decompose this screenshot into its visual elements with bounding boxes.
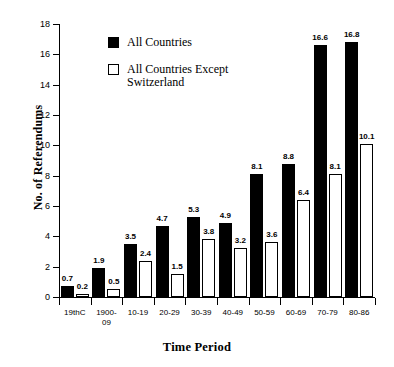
bar-value-label: 16.6 (308, 34, 333, 42)
bar (107, 289, 120, 297)
x-axis-tick (185, 298, 186, 305)
legend-swatch-hollow-icon (108, 64, 119, 75)
y-axis-tick (53, 176, 60, 177)
bar-value-label: 3.5 (118, 233, 143, 241)
x-axis-tick (122, 298, 123, 305)
referendums-bar-chart: 024681012141618 No. of Referendums 19thC… (0, 0, 394, 367)
x-axis-tick (217, 298, 218, 305)
x-axis-tick (343, 298, 344, 305)
bar (234, 248, 247, 297)
legend-item: All Countries (108, 36, 228, 50)
bar-value-label: 1.5 (165, 263, 190, 271)
bar-value-label: 0.2 (70, 283, 95, 291)
bar (360, 144, 373, 297)
y-axis-tick-label: 2 (10, 263, 50, 272)
bar-value-label: 3.2 (228, 237, 253, 245)
y-axis-tick-label: 18 (10, 20, 50, 29)
bar-value-label: 1.9 (86, 257, 111, 265)
y-axis-tick (53, 267, 60, 268)
legend-item-label: All Countries Except Switzerland (127, 63, 228, 90)
bar (282, 164, 295, 297)
x-axis-title: Time Period (0, 340, 394, 355)
legend-item: All Countries Except Switzerland (108, 63, 228, 90)
bar-value-label: 8.1 (323, 163, 348, 171)
bar (171, 274, 184, 297)
y-axis-tick (53, 24, 60, 25)
bar-value-label: 5.3 (181, 206, 206, 214)
y-axis-tick (53, 115, 60, 116)
y-axis-title: No. of Referendums (31, 58, 46, 258)
bar-value-label: 4.9 (213, 212, 238, 220)
bar-value-label: 3.6 (259, 231, 284, 239)
y-axis-tick (53, 54, 60, 55)
legend-swatch-filled-icon (108, 37, 119, 48)
chart-legend: All CountriesAll Countries Except Switze… (108, 36, 228, 103)
bar (219, 223, 232, 297)
bar (329, 174, 342, 297)
bar-value-label: 6.4 (291, 189, 316, 197)
bar-value-label: 4.7 (150, 215, 175, 223)
y-axis-tick-label: 0 (10, 293, 50, 302)
bar (76, 294, 89, 297)
x-axis-tick (280, 298, 281, 305)
y-axis-tick (53, 236, 60, 237)
y-axis-line (59, 24, 60, 298)
bar-value-label: 8.8 (276, 153, 301, 161)
legend-item-label: All Countries (127, 36, 192, 50)
x-axis-tick (59, 298, 60, 305)
y-axis-tick (53, 206, 60, 207)
bar (297, 200, 310, 297)
y-axis-tick (53, 85, 60, 86)
bar (265, 242, 278, 297)
x-axis-tick (312, 298, 313, 305)
x-axis-tick (154, 298, 155, 305)
bar (156, 226, 169, 297)
y-axis-tick (53, 145, 60, 146)
x-axis-tick (249, 298, 250, 305)
bar (139, 261, 152, 297)
bar-value-label: 3.8 (196, 228, 221, 236)
bar-value-label: 0.5 (101, 278, 126, 286)
x-axis-tick (375, 298, 376, 305)
bar (345, 42, 358, 297)
bar-value-label: 2.4 (133, 250, 158, 258)
bar (202, 239, 215, 297)
bar-value-label: 8.1 (244, 163, 269, 171)
x-axis-tick-label: 80-86 (340, 308, 378, 318)
bar-value-label: 16.8 (339, 31, 364, 39)
bar-value-label: 10.1 (354, 133, 379, 141)
x-axis-tick (91, 298, 92, 305)
